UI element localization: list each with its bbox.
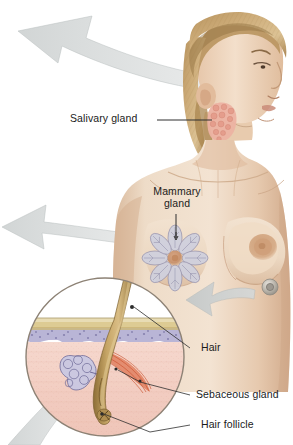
- label-salivary-gland: Salivary gland: [70, 113, 137, 125]
- label-mammary-gland-line1: Mammary: [153, 185, 200, 197]
- label-hair: Hair: [201, 342, 221, 354]
- anatomy-illustration: [0, 0, 293, 445]
- label-sebaceous-gland: Sebaceous gland: [196, 389, 279, 401]
- label-hair-follicle: Hair follicle: [201, 419, 254, 431]
- mammary-gland-lobes: [142, 225, 208, 291]
- label-mammary-gland-line2: gland: [164, 197, 190, 209]
- label-mammary-gland: Mammary gland: [140, 186, 214, 209]
- metal-stud: [262, 279, 278, 295]
- figure-canvas: Salivary gland Mammary gland Hair Sebace…: [0, 0, 293, 445]
